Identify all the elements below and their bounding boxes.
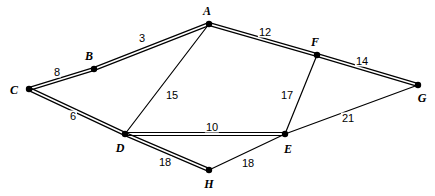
node-label-c: C [10,84,18,96]
edge-weight-dh: 18 [158,157,172,168]
edge-segment [285,85,418,134]
edge-segment [30,88,126,133]
edge-weight-de: 10 [205,122,219,133]
edge-weight-cb: 8 [53,67,61,78]
graph-canvas [0,0,435,196]
graph-diagram: ABCDEFGH8312141561017211818 [0,0,435,196]
edge-segment [93,23,208,68]
node-dot-f [314,52,320,58]
edges-layer [28,23,418,172]
node-label-a: A [203,5,211,17]
edge-segment [95,25,210,70]
node-label-b: B [85,50,93,62]
node-dot-b [91,66,97,72]
edge-cb [29,68,95,91]
edge-weight-ad: 15 [165,90,179,101]
node-dot-a [206,21,212,27]
node-label-e: E [284,143,292,155]
nodes-layer [26,21,421,173]
edge-de [125,133,285,136]
node-label-d: D [116,142,125,154]
node-label-g: G [418,92,427,104]
edge-weight-fg: 14 [355,56,369,67]
node-dot-g [415,82,421,88]
edge-weight-eg: 21 [341,113,355,124]
edge-weight-ba: 3 [138,33,146,44]
node-dot-e [282,131,288,137]
edge-weight-cd: 6 [69,111,77,122]
edge-segment [29,70,94,90]
edge-eg [285,85,418,134]
node-dot-c [26,86,32,92]
edge-weight-af: 12 [258,27,272,38]
node-label-f: F [311,36,319,48]
edge-weight-he: 18 [241,158,255,169]
node-label-h: H [204,178,213,190]
node-dot-d [122,131,128,137]
edge-weight-fe: 17 [280,90,294,101]
node-dot-h [206,167,212,173]
